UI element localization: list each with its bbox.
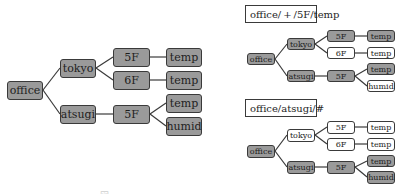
node-tokyo-6f-temp: temp <box>166 71 202 90</box>
node-atsugi-5f-humid: humid <box>367 80 395 92</box>
node-tokyo-5f-temp: temp <box>166 48 202 67</box>
node-tokyo-5f: 5F <box>327 30 355 42</box>
node-tokyo: tokyo <box>60 59 96 78</box>
node-office: office <box>247 145 275 158</box>
node-tokyo-6f: 6F <box>327 47 355 59</box>
node-tokyo-5f-temp: temp <box>367 121 395 134</box>
node-tokyo-6f: 6F <box>327 138 355 151</box>
node-tokyo-5f: 5F <box>327 121 355 134</box>
node-atsugi-5f-temp: temp <box>367 63 395 75</box>
node-tokyo-6f: 6F <box>113 71 150 90</box>
topic-tree-diagram: office tokyo atsugi 5F 6F 5F temp temp t… <box>0 0 401 194</box>
node-tokyo: tokyo <box>287 38 315 50</box>
node-atsugi-5f-humid: humid <box>166 117 202 136</box>
figure-caption: 図 ... <box>100 189 120 194</box>
node-atsugi-5f-humid: humid <box>367 171 395 184</box>
node-atsugi-5f-temp: temp <box>166 94 202 113</box>
node-office: office <box>7 81 43 100</box>
node-tokyo-5f-temp: temp <box>367 30 395 42</box>
node-tokyo: tokyo <box>287 129 315 142</box>
node-atsugi-5f: 5F <box>327 161 355 174</box>
node-office: office <box>247 53 275 65</box>
node-atsugi-5f: 5F <box>113 105 150 124</box>
node-atsugi: atsugi <box>287 161 315 174</box>
node-atsugi-5f-temp: temp <box>367 155 395 167</box>
topic-filter-label: office/atsugi/# <box>245 99 317 117</box>
topic-filter-label: office/ + /5F/temp <box>245 5 317 23</box>
node-atsugi-5f: 5F <box>327 70 355 82</box>
node-atsugi: atsugi <box>60 105 96 124</box>
node-atsugi: atsugi <box>287 70 315 82</box>
node-tokyo-6f-temp: temp <box>367 138 395 151</box>
node-tokyo-6f-temp: temp <box>367 47 395 59</box>
node-tokyo-5f: 5F <box>113 48 150 67</box>
